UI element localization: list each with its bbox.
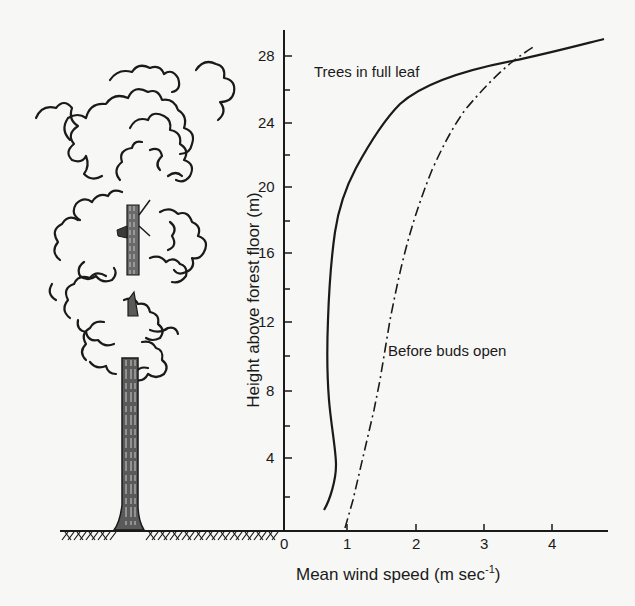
x-tick-label: 1: [343, 535, 351, 552]
chart-canvas: [0, 0, 635, 606]
y-axis-ticks: [284, 56, 292, 497]
series-full-leaf: [324, 39, 604, 510]
annotation-full-leaf: Trees in full leaf: [314, 63, 419, 80]
y-tick-label: 4: [266, 449, 274, 466]
annotation-before-buds: Before buds open: [388, 342, 506, 359]
axes: [284, 30, 552, 531]
y-tick-label: 28: [258, 47, 275, 64]
x-axis-title: Mean wind speed (m sec-1): [296, 563, 500, 585]
series-before-buds: [345, 46, 535, 528]
x-tick-label: 3: [480, 535, 488, 552]
y-tick-label: 8: [266, 382, 274, 399]
y-tick-label: 24: [258, 114, 275, 131]
x-tick-label: 0: [280, 535, 288, 552]
x-tick-label: 2: [412, 535, 420, 552]
x-tick-label: 4: [548, 535, 556, 552]
tree-trunk: [114, 200, 150, 530]
x-axis-ticks: [347, 524, 552, 531]
y-axis-title: Height above forest floor (m): [244, 192, 264, 407]
ground-hatch: [60, 531, 608, 540]
